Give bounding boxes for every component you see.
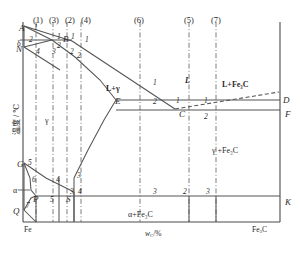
stage-number-12: 1 <box>176 97 180 105</box>
stage-number-5: 2 <box>57 42 61 50</box>
alloy-group-label-5: (5) <box>184 16 194 25</box>
stage-number-18: 3 <box>77 172 81 180</box>
phase-region-label-1: L+γ <box>106 85 120 93</box>
x-axis-label: wC/% <box>145 230 162 239</box>
alloy-group-label-3: (4) <box>81 16 91 25</box>
stage-number-14: 2 <box>204 113 208 121</box>
critical-point-label-0: A <box>19 24 25 33</box>
critical-point-label-1: N <box>16 45 22 54</box>
stage-number-9: 2 <box>70 48 74 56</box>
stage-number-21: 7 <box>26 202 30 210</box>
stage-number-6: 2 <box>77 52 81 60</box>
stage-number-11: 2 <box>153 98 157 106</box>
fe3c-prefix: Fe <box>252 225 260 234</box>
critical-point-label-7: G <box>17 160 24 169</box>
stage-number-17: 4 <box>56 176 60 184</box>
stage-number-16: 6 <box>32 176 36 184</box>
stage-number-1: 1 <box>57 33 61 41</box>
critical-point-label-6: F <box>285 110 291 119</box>
phase-region-label-4: γ +Fe₃C <box>212 147 238 155</box>
stage-number-15: 5 <box>28 159 32 167</box>
alloy-group-label-2: (2) <box>65 16 75 25</box>
phase-region-label-3: γ <box>45 117 49 125</box>
critical-point-label-9: S <box>66 195 71 204</box>
critical-point-label-5: D <box>283 96 290 105</box>
critical-point-label-2: B <box>63 35 69 44</box>
alloy-group-label-6: (7) <box>211 16 221 25</box>
y-axis-label: 温度 / ℃ <box>10 104 21 135</box>
critical-point-label-11: K <box>285 198 291 207</box>
critical-point-label-3: E <box>115 97 121 106</box>
stage-number-4: 2 <box>29 36 33 44</box>
fe3c-suffix: C <box>262 225 267 234</box>
stage-number-8: 3 <box>52 48 56 56</box>
x-axis-left-endpoint: Fe <box>24 226 32 234</box>
phase-region-label-7: α <box>13 187 17 195</box>
phase-region-label-5: α+Fe₃C <box>128 211 153 219</box>
stage-number-10: 1 <box>153 79 157 87</box>
alloy-composition-lines <box>36 22 216 222</box>
stage-number-2: 1 <box>71 33 75 41</box>
stage-number-20: 4 <box>78 188 82 196</box>
stage-number-13: 1 <box>204 97 208 105</box>
phase-diagram-figure: 温度 / ℃ wC/% Fe Fe3C (1)(3)(2)(4)(6)(5)(7… <box>0 0 300 257</box>
stage-number-24: 2 <box>183 188 187 196</box>
stage-number-25: 3 <box>206 188 210 196</box>
critical-point-label-8: P <box>33 195 39 204</box>
stage-number-22: 5 <box>50 196 54 204</box>
critical-point-label-10: Q <box>13 207 20 216</box>
phase-region-label-2: L+Fe₃C <box>222 81 249 89</box>
stage-number-7: 4 <box>36 48 40 56</box>
stage-number-23: 3 <box>153 188 157 196</box>
phase-boundaries <box>24 26 280 222</box>
phase-region-label-0: L <box>185 77 190 85</box>
alloy-group-label-4: (6) <box>134 16 144 25</box>
x-axis-right-endpoint: Fe3C <box>252 226 267 235</box>
stage-number-3: 1 <box>85 36 89 44</box>
x-axis-label-unit: /% <box>153 229 161 238</box>
alloy-group-label-1: (3) <box>49 16 59 25</box>
stage-number-0: 1 <box>34 24 38 32</box>
critical-point-label-4: C <box>179 110 185 119</box>
stage-number-19: 3 <box>70 188 74 196</box>
